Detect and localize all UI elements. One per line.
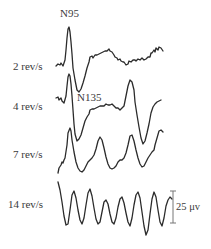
annotation-n135: N135 (77, 92, 101, 103)
row-label-7-revs: 7 rev/s (13, 149, 43, 160)
row-label-2-revs: 2 rev/s (13, 61, 43, 72)
figure: N95 N135 2 rev/s 4 rev/s 7 rev/s 14 rev/… (0, 0, 211, 249)
row-label-14-revs: 14 rev/s (8, 199, 43, 210)
annotation-n95: N95 (60, 8, 79, 19)
trace-2-revs (56, 27, 163, 92)
row-label-4-revs: 4 rev/s (13, 101, 43, 112)
trace-14-revs (58, 182, 172, 235)
trace-7-revs (58, 128, 163, 173)
scale-bar-label: 25 μv (176, 202, 200, 213)
